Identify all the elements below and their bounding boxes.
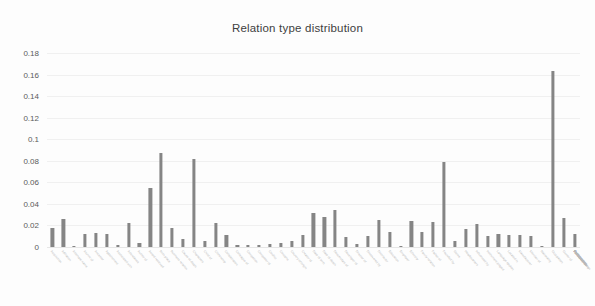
bar-slot (439, 53, 450, 247)
bar (421, 232, 424, 247)
plot-area (47, 53, 580, 247)
x-axis-tick-label: Education (387, 250, 399, 263)
bar-slot (515, 53, 526, 247)
bar (345, 237, 348, 247)
bar-slot (210, 53, 221, 247)
bar-slot (373, 53, 384, 247)
bar (268, 244, 271, 247)
bar (442, 162, 445, 247)
bar-slot (558, 53, 569, 247)
bar-slot (352, 53, 363, 247)
bar-slot (69, 53, 80, 247)
y-axis-tick-label: 0.08 (23, 156, 39, 165)
bar (377, 220, 380, 247)
bar (355, 244, 358, 247)
bar (323, 217, 326, 247)
bar-slot (101, 53, 112, 247)
bar (83, 234, 86, 247)
bar-slot (58, 53, 69, 247)
bar (562, 218, 565, 247)
bar-slot (167, 53, 178, 247)
bar (388, 232, 391, 247)
bar (127, 223, 130, 247)
y-axis-tick-label: 0 (35, 243, 39, 252)
bar-slot (156, 53, 167, 247)
bar-slot (199, 53, 210, 247)
bar-slot (460, 53, 471, 247)
x-axis-tick-label: Child of (202, 250, 211, 260)
bar (203, 241, 206, 247)
chart-title: Relation type distribution (0, 22, 595, 34)
bar (258, 245, 261, 247)
y-axis-tick-label: 0.18 (23, 49, 39, 58)
bar (138, 243, 141, 247)
bar (508, 235, 511, 247)
bar (94, 233, 97, 247)
bar (149, 188, 152, 247)
x-axis-tick-label: Work location (572, 250, 587, 267)
y-axis-tick-label: 0.02 (23, 221, 39, 230)
bar (366, 236, 369, 247)
bar (529, 236, 532, 247)
chart-container: Relation type distribution 00.020.040.06… (0, 0, 595, 306)
bar-slot (504, 53, 515, 247)
y-axis: 00.020.040.060.080.10.120.140.160.18 (0, 53, 44, 247)
bar (519, 235, 522, 247)
bar (105, 234, 108, 247)
bar-slot (341, 53, 352, 247)
bar (116, 245, 119, 247)
bar (279, 243, 282, 247)
y-axis-tick-label: 0.1 (28, 135, 39, 144)
bar (573, 234, 576, 247)
bar (192, 159, 195, 247)
bar-slot (91, 53, 102, 247)
bar (540, 246, 543, 247)
bar (399, 246, 402, 247)
bar-slot (395, 53, 406, 247)
bar-slot (449, 53, 460, 247)
bar (170, 228, 173, 247)
bar (312, 213, 315, 247)
bar-slot (330, 53, 341, 247)
x-axis-tick-label: Genre (453, 250, 461, 259)
bar-slot (254, 53, 265, 247)
bar-slot (80, 53, 91, 247)
bar (236, 245, 239, 247)
bar (214, 223, 217, 247)
bar-slot (526, 53, 537, 247)
bar-slot (319, 53, 330, 247)
bar-slot (47, 53, 58, 247)
bar (181, 239, 184, 247)
bar (225, 235, 228, 247)
bar-slot (243, 53, 254, 247)
bar-slot (286, 53, 297, 247)
bar (160, 153, 163, 247)
x-axis-tick-label: Ethnicity (409, 250, 419, 261)
bar-slot (145, 53, 156, 247)
bar-slot (493, 53, 504, 247)
x-axis-tick-label: Conflict (268, 250, 277, 260)
x-axis-labels: AcquisitionAffiliationAlternate nameAlum… (47, 248, 580, 306)
bar-slot (417, 53, 428, 247)
bar (432, 222, 435, 247)
x-axis-tick-label: Contains (278, 250, 288, 262)
bar-slot (569, 53, 580, 247)
bar (497, 234, 500, 247)
bar-slot (275, 53, 286, 247)
bar-slot (297, 53, 308, 247)
bar-slot (112, 53, 123, 247)
bar-slot (123, 53, 134, 247)
bar-slot (362, 53, 373, 247)
bar (301, 235, 304, 247)
y-axis-tick-label: 0.04 (23, 199, 39, 208)
bar-slot (178, 53, 189, 247)
bar-slot (134, 53, 145, 247)
bar-slot (188, 53, 199, 247)
bar-slot (547, 53, 558, 247)
bar-slot (232, 53, 243, 247)
bar-slot (536, 53, 547, 247)
y-axis-tick-label: 0.16 (23, 70, 39, 79)
bar-slot (406, 53, 417, 247)
bar-slot (384, 53, 395, 247)
bar-series (47, 53, 580, 247)
